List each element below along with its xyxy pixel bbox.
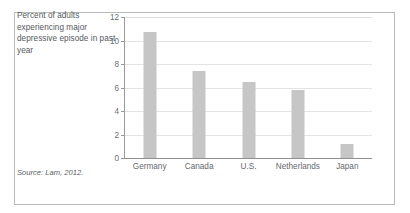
x-axis-line xyxy=(124,158,372,159)
x-tick-label: U.S. xyxy=(241,162,257,171)
y-tick-mark xyxy=(121,111,124,112)
source-note: Source: Lam, 2012. xyxy=(17,168,83,177)
y-tick-mark xyxy=(121,158,124,159)
y-tick-label: 6 xyxy=(114,83,119,92)
bar-germany xyxy=(143,32,156,158)
figure-root: Percent of adults experiencing major dep… xyxy=(0,0,410,213)
y-tick-mark xyxy=(121,64,124,65)
y-tick-label: 0 xyxy=(114,154,119,163)
x-tick-label: Germany xyxy=(133,162,167,171)
bar-japan xyxy=(341,144,354,158)
chart-caption: Percent of adults experiencing major dep… xyxy=(17,10,117,56)
y-tick-mark xyxy=(121,135,124,136)
y-tick-label: 4 xyxy=(114,107,119,116)
bar-canada xyxy=(193,71,206,158)
x-tick-label: Netherlands xyxy=(276,162,320,171)
x-axis-labels: GermanyCanadaU.S.NetherlandsJapan xyxy=(124,162,372,176)
y-tick-label: 8 xyxy=(114,60,119,69)
bar-netherlands xyxy=(291,90,304,158)
bars-layer xyxy=(125,17,372,158)
x-tick-label: Canada xyxy=(185,162,214,171)
y-tick-label: 2 xyxy=(114,130,119,139)
plot-area: 024681012 xyxy=(124,17,372,159)
y-tick-label: 12 xyxy=(110,13,119,22)
x-tick-label: Japan xyxy=(336,162,358,171)
y-tick-mark xyxy=(121,41,124,42)
y-tick-mark xyxy=(121,88,124,89)
y-tick-mark xyxy=(121,17,124,18)
bar-u-s xyxy=(242,82,255,158)
y-tick-label: 10 xyxy=(110,36,119,45)
